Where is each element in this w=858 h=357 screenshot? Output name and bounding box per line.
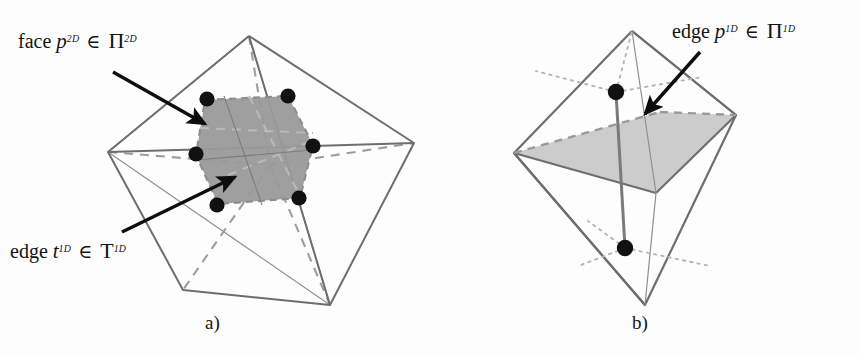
label-edge-p1d-word: edge [672,20,710,42]
node-marker [608,84,624,100]
label-edge-p1d-operator: ∈ [738,21,763,42]
node-marker [280,88,295,103]
label-edge-t1d-operator: ∈ [71,241,96,262]
label-edge-t1d-symbol: t [48,239,59,263]
panel-b-dotted-rays-lower [581,221,710,266]
label-edge-p1d: edgep1D∈Π1D [672,20,795,42]
label-edge-p1d-symbol-sup: 1D [725,23,738,34]
label-face-p2d: facep2D∈Π2D [18,30,137,52]
figure-canvas [0,0,858,357]
label-face-p2d-word: face [18,30,51,52]
node-marker [617,240,633,256]
arrow-to-face-p2d [113,72,205,124]
caption-panel-b: b) [632,312,648,334]
node-marker [199,91,214,106]
panel-a-group [108,36,414,305]
label-edge-p1d-set: Π [763,18,783,43]
label-face-p2d-operator: ∈ [79,31,104,52]
label-edge-t1d-symbol-sup: 1D [59,243,72,254]
label-edge-t1d-set-sup: 1D [114,243,127,254]
panel-b-group [514,31,736,305]
label-face-p2d-set-sup: 2D [124,33,137,44]
label-face-p2d-symbol-sup: 2D [67,33,80,44]
label-face-p2d-set: Π [104,28,124,53]
label-edge-t1d-word: edge [10,240,48,262]
label-edge-t1d-set: T [96,238,113,263]
caption-panel-a: a) [205,312,220,334]
label-edge-p1d-set-sup: 1D [783,23,796,34]
node-marker [188,146,203,161]
node-marker [305,138,320,153]
arrow-to-edge-p1d [645,52,700,114]
shaded-quad-face [514,112,736,193]
label-face-p2d-symbol: p [51,29,67,53]
node-marker [291,190,306,205]
label-edge-p1d-symbol: p [710,19,726,43]
node-marker [209,197,224,212]
figure-root: facep2D∈Π2D edget1D∈T1D edgep1D∈Π1D a) b… [0,0,858,357]
label-edge-t1d: edget1D∈T1D [10,240,126,262]
